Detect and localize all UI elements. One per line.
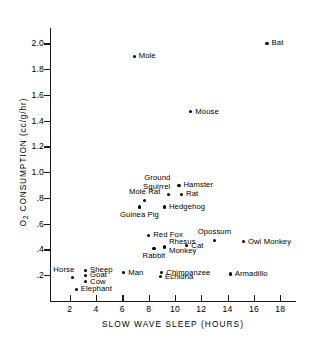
- data-point: [163, 205, 166, 208]
- data-point-label: Rhesus Monkey: [169, 238, 197, 255]
- y-tick-mark: [44, 249, 50, 250]
- data-point: [242, 240, 245, 243]
- x-axis-line: [50, 301, 296, 302]
- y-tick-mark: [44, 95, 50, 96]
- data-point-label: Guinea Pig: [120, 211, 159, 220]
- data-point: [265, 42, 268, 45]
- data-point: [159, 275, 162, 278]
- data-point: [160, 271, 163, 274]
- data-point-label: Hedgehog: [169, 203, 205, 212]
- data-point-label: Echidna: [165, 272, 193, 281]
- y-tick-mark: [44, 69, 50, 70]
- data-point: [71, 276, 74, 279]
- x-tick-mark: [70, 295, 71, 301]
- data-point-label: Mole Rat: [129, 188, 161, 197]
- data-point-label: Bat: [272, 39, 284, 48]
- data-point-label: Rat: [186, 190, 198, 199]
- y-tick-mark: [44, 224, 50, 225]
- data-point: [84, 269, 87, 272]
- y-tick-label: 1.8: [18, 65, 44, 74]
- x-tick-mark: [175, 295, 176, 301]
- y-axis-line: [50, 28, 51, 302]
- y-tick-mark: [44, 198, 50, 199]
- data-point-label: Rabbit: [143, 252, 166, 261]
- data-point: [122, 271, 125, 274]
- y-tick-label: .4: [18, 245, 44, 254]
- data-point-label: Horse: [53, 266, 74, 275]
- data-point: [177, 184, 180, 187]
- x-tick-mark: [149, 295, 150, 301]
- scatter-plot-figure: .2.4.6.81.01.21.41.61.82.0 2468101214161…: [0, 0, 315, 343]
- data-point: [84, 280, 87, 283]
- x-tick-mark: [228, 295, 229, 301]
- y-tick-mark: [44, 172, 50, 173]
- data-point-label: Opossum: [198, 228, 232, 237]
- x-tick-mark: [254, 295, 255, 301]
- data-point-label: Mouse: [195, 107, 219, 116]
- x-tick-mark: [122, 295, 123, 301]
- data-point: [180, 193, 183, 196]
- data-point-label: Elephant: [81, 285, 112, 294]
- data-point: [84, 274, 87, 277]
- data-point: [229, 272, 232, 275]
- x-axis-label: SLOW WAVE SLEEP (HOURS): [50, 319, 296, 329]
- y-tick-mark: [44, 275, 50, 276]
- y-tick-label: .2: [18, 271, 44, 280]
- data-point: [163, 245, 166, 248]
- data-point: [167, 193, 170, 196]
- data-point: [152, 247, 155, 250]
- data-point: [189, 110, 192, 113]
- y-tick-label: 2.0: [18, 39, 44, 48]
- data-point: [213, 239, 216, 242]
- x-tick-label: 18: [265, 305, 295, 314]
- data-point: [147, 234, 150, 237]
- data-point-label: Mole: [139, 52, 156, 61]
- x-tick-mark: [280, 295, 281, 301]
- x-tick-mark: [96, 295, 97, 301]
- y-tick-mark: [44, 43, 50, 44]
- x-tick-mark: [201, 295, 202, 301]
- data-point-label: Armadillo: [235, 270, 268, 279]
- data-point: [133, 55, 136, 58]
- y-axis-label: O2 CONSUMPTION (cc/g/hr): [18, 87, 28, 237]
- y-tick-mark: [44, 121, 50, 122]
- data-point: [138, 205, 141, 208]
- y-tick-mark: [44, 146, 50, 147]
- data-point: [75, 288, 78, 291]
- data-point: [143, 199, 146, 202]
- data-point-label: Owl Monkey: [248, 237, 291, 246]
- data-point-label: Man: [128, 268, 143, 277]
